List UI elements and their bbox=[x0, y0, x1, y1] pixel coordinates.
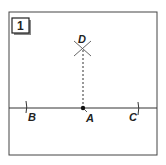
step-number: 1 bbox=[17, 19, 24, 33]
arc-mark-b bbox=[26, 101, 27, 113]
label-a: A bbox=[85, 112, 94, 124]
label-b: B bbox=[28, 111, 36, 123]
label-c: C bbox=[129, 111, 138, 123]
step-number-badge: 1 bbox=[12, 18, 31, 35]
construction-diagram: 1 B A C D bbox=[0, 0, 166, 165]
label-d: D bbox=[78, 33, 86, 45]
